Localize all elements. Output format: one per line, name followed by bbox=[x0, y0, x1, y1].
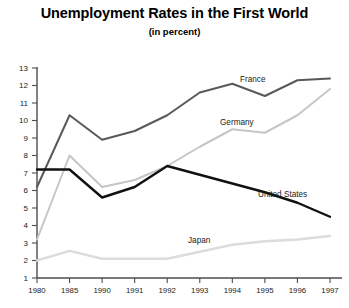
x-axis: 1980198519901991199219931994199519961997 bbox=[28, 278, 342, 295]
x-tick-label: 1996 bbox=[289, 286, 306, 295]
series-label-germany: Germany bbox=[220, 118, 255, 127]
series-line-japan bbox=[37, 236, 330, 261]
series-label-group: FranceGermanyUnited StatesJapan bbox=[188, 75, 307, 245]
y-tick-label: 6 bbox=[24, 186, 29, 195]
x-tick-label: 1980 bbox=[28, 286, 46, 295]
x-tick-label: 1992 bbox=[159, 286, 176, 295]
y-tick-label: 13 bbox=[19, 64, 28, 73]
x-tick-label: 1995 bbox=[256, 286, 274, 295]
x-tick-label: 1990 bbox=[93, 286, 111, 295]
series-label-france: France bbox=[240, 75, 266, 84]
x-tick-label: 1997 bbox=[321, 286, 338, 295]
y-tick-label: 8 bbox=[24, 151, 29, 160]
series-label-japan: Japan bbox=[188, 236, 211, 245]
y-tick-label: 5 bbox=[24, 204, 29, 213]
y-tick-label: 3 bbox=[24, 239, 29, 248]
y-axis: 12345678910111213 bbox=[19, 64, 37, 283]
x-tick-label: 1985 bbox=[61, 286, 79, 295]
y-tick-label: 4 bbox=[24, 221, 29, 230]
chart-container: Unemployment Rates in the First World (i… bbox=[0, 0, 349, 308]
x-tick-label: 1993 bbox=[191, 286, 208, 295]
y-tick-label: 12 bbox=[19, 81, 28, 90]
series-label-united-states: United States bbox=[258, 190, 307, 199]
x-tick-label: 1991 bbox=[126, 286, 143, 295]
y-tick-label: 10 bbox=[19, 116, 28, 125]
y-tick-label: 11 bbox=[20, 99, 29, 108]
y-tick-label: 2 bbox=[24, 256, 29, 265]
y-tick-label: 1 bbox=[24, 274, 29, 283]
x-tick-label: 1994 bbox=[224, 286, 242, 295]
data-series-group bbox=[37, 79, 330, 261]
series-line-germany bbox=[37, 89, 330, 240]
y-tick-label: 7 bbox=[24, 169, 29, 178]
y-tick-label: 9 bbox=[24, 134, 29, 143]
line-chart-plot: 12345678910111213 1980198519901991199219… bbox=[0, 0, 349, 308]
